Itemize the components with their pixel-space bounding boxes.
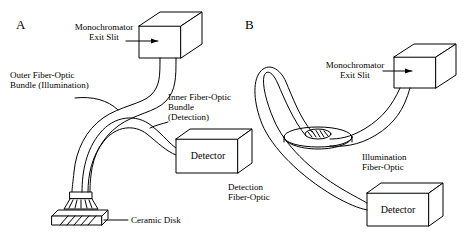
ceramic-disk-a [52,210,108,225]
figure-canvas: A Monochromator Exit Slit Outer Fiber-Op… [0,0,466,243]
monochromator-box-a [139,12,202,58]
monochromator-box-b [394,44,456,88]
illumination-fiber-optic-b [330,88,410,146]
label-monochromator-exit-slit-b: Monochromator Exit Slit [318,60,392,80]
label-detector-b: Detector [375,205,421,215]
label-outer-fiber-optic-bundle: Outer Fiber-Optic Bundle (Illumination) [10,70,106,90]
label-inner-fiber-optic-bundle: Inner Fiber-Optic Bundle (Detection) [168,92,248,122]
label-detection-fiber-optic: Detection Fiber-Optic [228,182,292,202]
label-ceramic-disk: Ceramic Disk [131,215,181,225]
label-illumination-fiber-optic: Illumination Fiber-Optic [362,152,428,172]
panel-letter-a: A [16,20,25,30]
probe-tip-a [64,192,98,209]
panel-letter-b: B [245,20,254,30]
outer-bundle-leader [75,98,118,111]
inner-bundle-leader [150,122,168,128]
label-detector-a: Detector [185,151,231,161]
label-monochromator-exit-slit-a: Monochromator Exit Slit [64,22,144,42]
